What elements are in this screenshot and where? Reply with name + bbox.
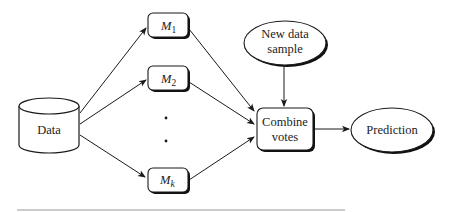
edge-m2-combine xyxy=(189,82,254,124)
edge-data-mk xyxy=(80,135,145,177)
model-m1-node: M1 xyxy=(148,13,190,39)
model-mk-node: Mk xyxy=(148,168,190,194)
ellipsis-dots xyxy=(165,117,168,143)
combine-votes-node: Combine votes xyxy=(257,108,315,152)
edge-mk-combine xyxy=(189,137,254,180)
new-data-sample-node: New data sample xyxy=(244,21,328,67)
data-label: Data xyxy=(37,123,61,137)
edge-data-m2 xyxy=(80,80,146,124)
data-node: Data xyxy=(19,98,79,153)
new-sample-label-line1: New data xyxy=(261,27,309,41)
prediction-label: Prediction xyxy=(366,123,418,137)
prediction-node: Prediction xyxy=(351,108,435,154)
combine-label-line1: Combine xyxy=(262,115,308,129)
model-m2-node: M2 xyxy=(148,66,190,92)
new-sample-label-line2: sample xyxy=(267,42,303,56)
ensemble-diagram: Data M1 M2 Mk New data sample Combine vo… xyxy=(0,0,455,212)
edge-data-m1 xyxy=(80,28,146,113)
combine-label-line2: votes xyxy=(272,130,299,144)
